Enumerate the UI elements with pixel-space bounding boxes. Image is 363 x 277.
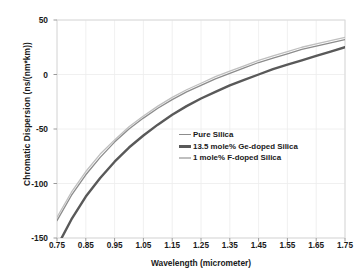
y-axis-tick-labels: 500-50-100-150 xyxy=(0,0,52,277)
legend-line-swatch xyxy=(179,134,191,135)
chart-legend: Pure Silica13.5 mole% Ge-doped Silica1 m… xyxy=(179,129,314,164)
x-axis-tick-label: 1.75 xyxy=(325,241,363,251)
legend-label: Pure Silica xyxy=(193,130,233,139)
legend-item: Pure Silica xyxy=(179,129,314,141)
legend-label: 13.5 mole% Ge-doped Silica xyxy=(193,142,298,151)
y-axis-tick-label: 50 xyxy=(0,15,48,25)
legend-item: 13.5 mole% Ge-doped Silica xyxy=(179,141,314,153)
legend-item: 1 mole% F-doped Silica xyxy=(179,152,314,164)
x-axis-title: Wavelength (micrometer) xyxy=(57,258,345,268)
chromatic-dispersion-chart: Chromatic Dispersion (ns/(nm*km)) Wavele… xyxy=(0,0,363,277)
y-axis-tick-label: 0 xyxy=(0,70,48,80)
y-axis-tick-label: -100 xyxy=(0,179,48,189)
legend-label: 1 mole% F-doped Silica xyxy=(193,153,281,162)
legend-line-swatch xyxy=(179,157,191,158)
legend-line-swatch xyxy=(179,145,191,148)
y-axis-tick-label: -50 xyxy=(0,124,48,134)
